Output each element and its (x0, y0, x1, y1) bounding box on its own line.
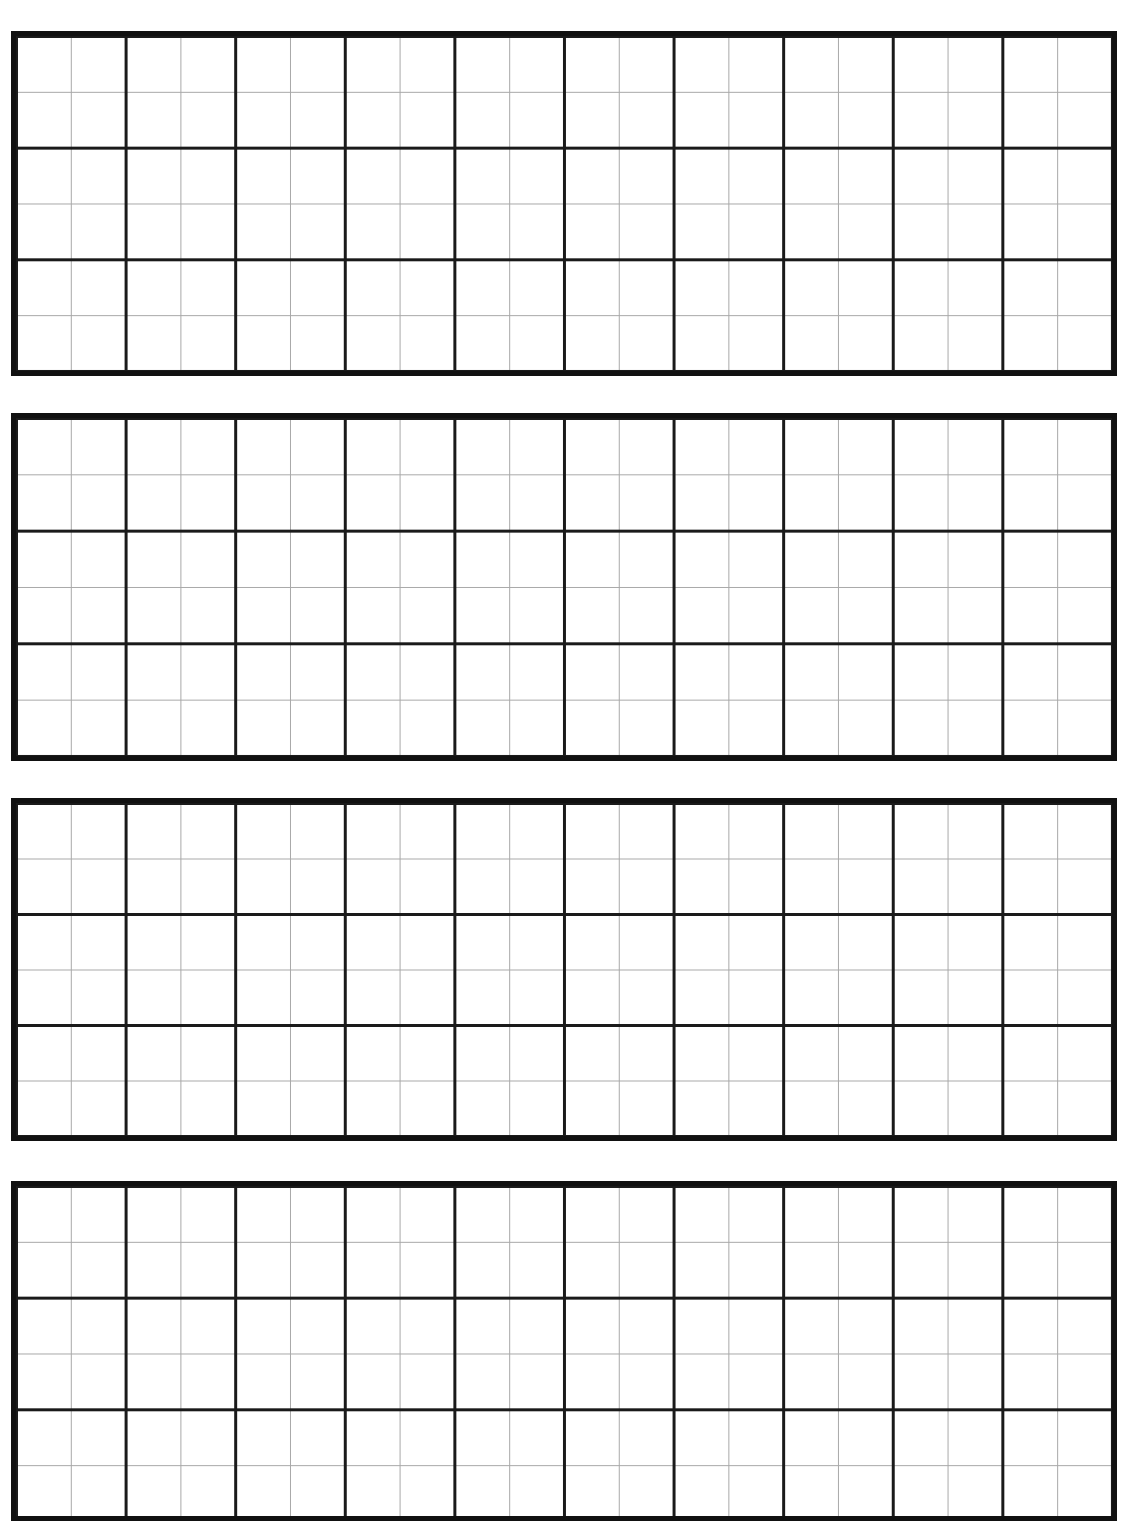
graph-grid-block-1 (11, 31, 1117, 376)
graph-grid-block-2 (11, 413, 1117, 761)
graph-grid-block-3 (11, 798, 1117, 1141)
graph-grid-block-4 (11, 1181, 1117, 1521)
